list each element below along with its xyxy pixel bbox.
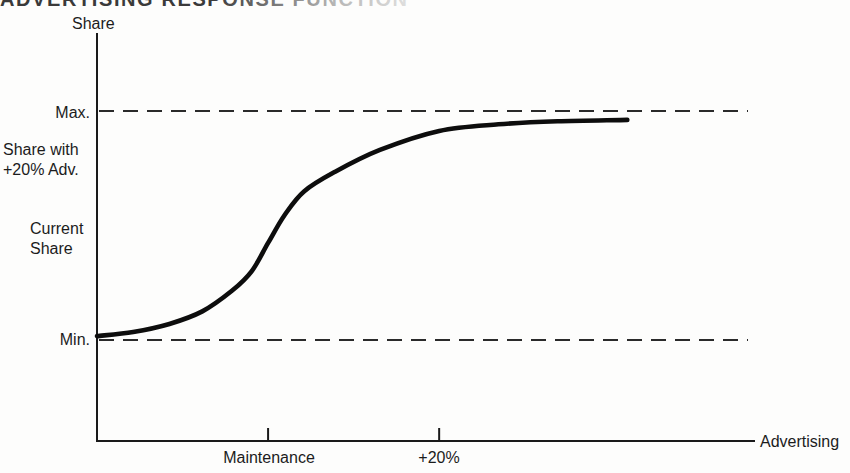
chart-canvas: [0, 0, 850, 473]
x-axis-title: Advertising: [760, 432, 839, 452]
share-with-plus20-label: Share with +20% Adv.: [3, 140, 83, 179]
min-label: Min.: [54, 330, 90, 350]
share-with-line1: Share with: [3, 141, 79, 158]
advertising-response-chart: ADVERTISING RESPONSE FUNCTION Share Max.…: [0, 0, 850, 473]
share-with-line2: +20% Adv.: [3, 161, 79, 178]
y-axis-title: Share: [72, 14, 115, 34]
current-share-label: Current Share: [30, 219, 110, 258]
response-curve: [97, 120, 627, 336]
x-tick-label-maintenance: Maintenance: [194, 448, 344, 468]
current-line2: Share: [30, 240, 73, 257]
x-tick-label-plus20: +20%: [389, 448, 489, 468]
current-line1: Current: [30, 220, 83, 237]
max-label: Max.: [20, 103, 90, 123]
